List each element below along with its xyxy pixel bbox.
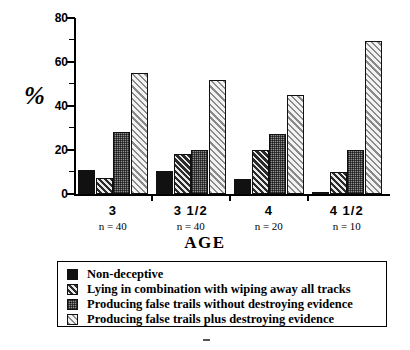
x-category-name: 4 1/2 [292, 203, 402, 218]
gray-checker-swatch [67, 299, 78, 310]
legend-item-label: Non-deceptive [87, 268, 163, 281]
x-tick [151, 196, 153, 201]
y-tick-label: 80 [36, 11, 68, 25]
x-category-sample-size: n = 10 [292, 220, 402, 232]
page-footer-mark [203, 339, 210, 341]
legend-item: Lying in combination with wiping away al… [67, 282, 386, 297]
x-axis-line [74, 194, 390, 196]
bar [78, 170, 95, 194]
legend-item: Producing false trails plus destroying e… [67, 312, 386, 327]
x-axis-title: AGE [0, 233, 410, 253]
bar-group [78, 18, 148, 194]
legend-item-label: Producing false trails without destroyin… [87, 298, 353, 311]
solid-black-swatch [67, 269, 78, 280]
x-category-label: 4 1/2n = 10 [292, 203, 402, 232]
bar [330, 172, 347, 194]
legend-item-label: Lying in combination with wiping away al… [87, 283, 351, 296]
light-diagonal-hatch-swatch [67, 314, 78, 325]
bar [131, 73, 148, 194]
bar [209, 80, 226, 194]
y-tick-label: 20 [36, 143, 68, 157]
bar [234, 179, 251, 194]
bar [347, 150, 364, 194]
bar [269, 134, 286, 195]
bar [96, 178, 113, 195]
bar-group [156, 18, 226, 194]
legend-item: Non-deceptive [67, 267, 386, 282]
bar [174, 154, 191, 194]
plot-area: % 020406080 3n = 403 1/2n = 404n = 204 1… [0, 0, 410, 250]
x-tick [307, 196, 309, 201]
legend-box: Non-deceptiveLying in combination with w… [57, 261, 387, 327]
bar [113, 132, 130, 194]
bar [252, 150, 269, 194]
figure-root: % 020406080 3n = 403 1/2n = 404n = 204 1… [0, 0, 410, 350]
bar [156, 171, 173, 194]
bar [312, 192, 329, 194]
y-tick-label: 60 [36, 55, 68, 69]
bar-group [312, 18, 382, 194]
y-tick-label: 40 [36, 99, 68, 113]
dark-diagonal-hatch-swatch [67, 284, 78, 295]
bar-group [234, 18, 304, 194]
y-tick-label: 0 [36, 187, 68, 201]
bar [365, 41, 382, 194]
bar [191, 150, 208, 194]
bar [287, 95, 304, 194]
x-tick [229, 196, 231, 201]
bar-group-container [74, 18, 390, 194]
legend-item-label: Producing false trails plus destroying e… [87, 313, 334, 326]
legend-item: Producing false trails without destroyin… [67, 297, 386, 312]
